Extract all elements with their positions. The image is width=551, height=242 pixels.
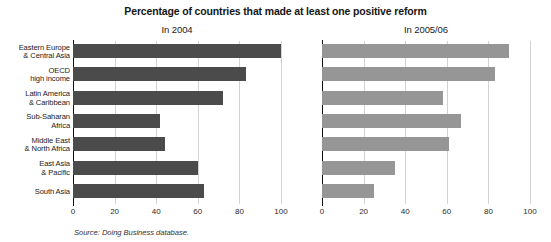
bar-row (73, 134, 281, 157)
bar (322, 114, 461, 128)
bar-row (322, 64, 530, 87)
category-label: OECDhigh income (0, 67, 70, 84)
bar (73, 161, 198, 175)
bar-row (322, 88, 530, 111)
plot-area-left: 020406080100 (73, 41, 281, 204)
bar-row (73, 41, 281, 64)
source-note: Source: Doing Business database. (74, 228, 189, 237)
figure-container: Percentage of countries that made at lea… (0, 0, 551, 242)
bar (322, 67, 495, 81)
bar (73, 184, 204, 198)
bar (73, 67, 246, 81)
bar (73, 137, 165, 151)
bar-row (73, 181, 281, 204)
bar-row (322, 158, 530, 181)
bar (73, 91, 223, 105)
gridline-100 (281, 41, 282, 204)
bar-row (322, 134, 530, 157)
category-label: Middle East& North Africa (0, 137, 70, 154)
bar (322, 44, 509, 58)
x-tick-label-100: 100 (523, 207, 536, 216)
x-tick-label-40: 40 (152, 207, 161, 216)
category-label: Latin America& Caribbean (0, 90, 70, 107)
bar-row (73, 158, 281, 181)
x-tick-label-20: 20 (359, 207, 368, 216)
bar-row (322, 111, 530, 134)
category-label: Sub-SaharanAfrica (0, 113, 70, 130)
category-label: South Asia (0, 188, 70, 197)
x-tick-label-40: 40 (401, 207, 410, 216)
x-tick-label-80: 80 (484, 207, 493, 216)
bar (322, 184, 374, 198)
x-tick-label-0: 0 (320, 207, 324, 216)
x-tick-label-80: 80 (235, 207, 244, 216)
x-tick-label-100: 100 (274, 207, 287, 216)
x-tick-label-60: 60 (442, 207, 451, 216)
category-axis-labels: Eastern Europe& Central AsiaOECDhigh inc… (0, 41, 70, 204)
bar-row (73, 64, 281, 87)
source-publication-name: Doing Business (102, 228, 154, 237)
gridline-100 (530, 41, 531, 204)
panel-title-left: In 2004 (73, 24, 281, 35)
x-tick-label-0: 0 (71, 207, 75, 216)
x-tick-label-20: 20 (110, 207, 119, 216)
bar-row (73, 88, 281, 111)
bar (322, 91, 443, 105)
x-tick-label-60: 60 (193, 207, 202, 216)
bar-row (322, 41, 530, 64)
bar-row (73, 111, 281, 134)
plot-area-right: 020406080100 (322, 41, 530, 204)
category-label: East Asia& Pacific (0, 160, 70, 177)
bar (73, 114, 160, 128)
bar-row (322, 181, 530, 204)
panel-title-right: In 2005/06 (322, 24, 530, 35)
category-label: Eastern Europe& Central Asia (0, 44, 70, 61)
bar (322, 161, 395, 175)
bar (322, 137, 449, 151)
page-title: Percentage of countries that made at lea… (0, 5, 551, 17)
bar (73, 44, 281, 58)
